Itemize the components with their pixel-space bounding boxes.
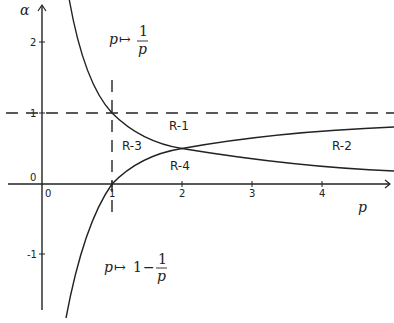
formula-reciprocal: p ↦ 1 p	[109, 23, 148, 57]
y-tick-label-2: 2	[30, 37, 36, 48]
x-tick-label-4: 4	[319, 188, 325, 199]
y-axis-label: α	[20, 2, 30, 18]
svg-text:p: p	[104, 259, 113, 275]
svg-text:1: 1	[139, 23, 148, 39]
region-label-r4: R-4	[170, 159, 190, 173]
y-tick-label-neg1: -1	[27, 249, 37, 260]
x-axis-label: p	[358, 199, 367, 215]
svg-text:p: p	[157, 268, 166, 284]
diagram-canvas: 0 1 2 3 4 2 1 0 -1 α p R-1 R-2 R-3 R-4 p…	[0, 0, 394, 323]
formula-one-minus-reciprocal: p ↦ 1 − 1 p	[104, 251, 167, 284]
region-label-r2: R-2	[332, 139, 352, 153]
svg-text:↦: ↦	[114, 259, 126, 275]
svg-text:1: 1	[133, 259, 142, 275]
y-tick-label-1: 1	[30, 108, 36, 119]
x-tick-label-3: 3	[249, 188, 255, 199]
y-tick-label-0: 0	[30, 172, 36, 183]
x-tick-label-0: 0	[45, 188, 51, 199]
svg-text:1: 1	[158, 251, 167, 267]
x-tick-label-1: 1	[109, 188, 115, 199]
x-tick-label-2: 2	[179, 188, 185, 199]
region-label-r3: R-3	[122, 139, 142, 153]
region-label-r1: R-1	[169, 119, 189, 133]
svg-text:−: −	[143, 259, 155, 275]
svg-text:p: p	[138, 41, 147, 57]
svg-text:p: p	[109, 31, 118, 47]
svg-text:↦: ↦	[119, 31, 131, 47]
